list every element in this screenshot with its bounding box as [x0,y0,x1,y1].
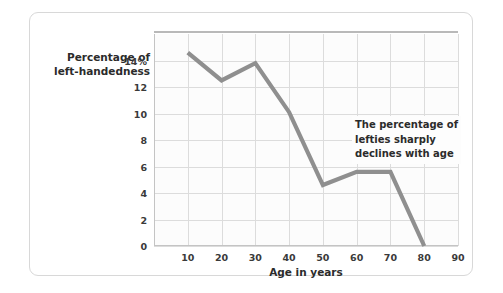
y-axis-title-line-2: left-handedness [38,65,150,79]
x-axis-tick-label: 80 [418,252,431,263]
x-axis-tick-label: 90 [451,252,464,263]
y-axis-tick-label: 14% [124,55,147,66]
x-axis-title: Age in years [154,266,458,278]
y-axis-tick-label: 12 [134,82,147,93]
x-axis-tick-label: 10 [181,252,194,263]
plot-area: 02468101214% 102030405060708090 The perc… [154,34,458,246]
y-axis-tick-label: 2 [140,214,147,225]
annotation-line-2: lefties sharply [355,133,458,148]
plot-top-rule [154,31,458,33]
y-axis-tick-label: 4 [140,188,147,199]
y-axis-tick-label: 8 [140,135,147,146]
x-axis-tick-label: 50 [316,252,329,263]
y-axis-tick-label: 6 [140,161,147,172]
gridline-horizontal [154,246,458,247]
x-axis-tick-label: 40 [282,252,295,263]
x-axis-tick-label: 70 [384,252,397,263]
x-axis-tick-label: 30 [249,252,262,263]
chart-card: Percentage of left-handedness 0246810121… [29,12,473,276]
y-axis-tick-label: 10 [134,108,147,119]
annotation-line-1: The percentage of [355,118,458,133]
y-axis-tick-label: 0 [140,241,147,252]
annotation-line-3: declines with age [355,147,458,162]
x-axis-tick-label: 20 [215,252,228,263]
x-axis-tick-label: 60 [350,252,363,263]
chart-annotation: The percentage of lefties sharply declin… [352,116,461,164]
